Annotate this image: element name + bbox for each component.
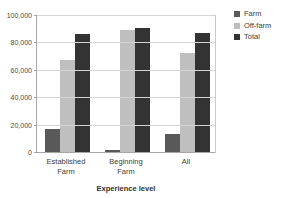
y-axis-tick-label: 40,000 [11,94,32,101]
x-axis-line [37,152,215,153]
legend-swatch-icon [234,34,240,40]
bar-off-farm [180,53,195,152]
y-axis-tick-label: 20,000 [11,121,32,128]
x-axis-title: Experience level [36,184,216,193]
legend-label: Total [244,33,260,41]
y-axis: 020,00040,00060,00080,000100,000 [0,0,36,198]
bar-group [37,15,97,152]
gridline [37,97,215,98]
bar-farm [45,129,60,152]
legend-label: Farm [244,10,262,18]
bar-group [97,15,157,152]
legend-swatch-icon [234,23,240,29]
legend-item: Total [234,33,300,41]
y-axis-tick-label: 0 [28,149,32,156]
bar-total [135,28,150,152]
x-axis-category-label: Beginning Farm [96,157,156,177]
bar-off-farm [120,30,135,152]
x-axis-category-labels: Established FarmBeginning FarmAll [36,157,216,185]
y-axis-tick-mark [34,70,37,71]
plot-area [36,15,216,153]
x-axis-category-label: All [156,157,216,167]
legend-label: Off-farm [244,22,271,30]
y-axis-tick-label: 60,000 [11,66,32,73]
legend-item: Off-farm [234,22,300,30]
bar-farm [165,134,180,152]
legend-item: Farm [234,10,300,18]
gridline [37,15,215,16]
x-axis-category-label: Established Farm [36,157,96,177]
legend-swatch-icon [234,11,240,17]
bar-total [75,34,90,152]
gridline [37,42,215,43]
bar-off-farm [60,60,75,152]
gridline [37,70,215,71]
y-axis-tick-label: 80,000 [11,39,32,46]
bar-total [195,33,210,152]
y-axis-tick-mark [34,125,37,126]
bar-chart: 020,00040,00060,00080,000100,000 Establi… [0,0,303,198]
bars-layer [37,16,215,153]
y-axis-tick-mark [34,152,37,153]
legend: FarmOff-farmTotal [234,10,300,45]
y-axis-tick-mark [34,42,37,43]
gridline [37,125,215,126]
y-axis-tick-mark [34,97,37,98]
y-axis-tick-mark [34,15,37,16]
y-axis-tick-label: 100,000 [7,12,32,19]
bar-group [157,15,217,152]
